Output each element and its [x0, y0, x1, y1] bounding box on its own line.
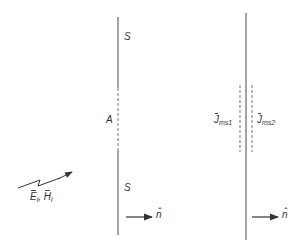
- left-normal-label: n̂: [156, 210, 162, 220]
- surface-label-top: S: [124, 32, 131, 42]
- aperture-label: A: [106, 115, 113, 125]
- surface-label-bottom: S: [124, 183, 131, 193]
- current-symbol-2: J: [257, 115, 262, 125]
- field-separator: ,: [38, 191, 41, 202]
- right-normal-label: n̂: [282, 210, 288, 220]
- h-field-symbol: H: [44, 192, 51, 202]
- current-label-ms2: Jms2: [257, 115, 275, 126]
- diagram-canvas: S S A n̂ Jms1 Jms2 n̂ Ei, Hi: [0, 0, 303, 242]
- current-symbol-1: J: [214, 115, 219, 125]
- current-label-ms1: Jms1: [214, 115, 232, 126]
- h-field-sub: i: [51, 196, 53, 203]
- incident-field-label: Ei, Hi: [30, 192, 53, 203]
- e-field-symbol: E: [30, 192, 37, 202]
- current-sub-2: ms2: [262, 119, 275, 126]
- incident-wave-arrow: [18, 178, 60, 188]
- incident-wave-arrowhead-line: [58, 172, 72, 179]
- current-sub-1: ms1: [219, 119, 232, 126]
